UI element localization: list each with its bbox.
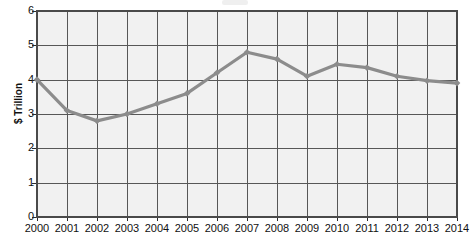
x-tick-label: 2000 xyxy=(21,222,53,234)
x-tick-label: 2007 xyxy=(231,222,263,234)
x-tick-label: 2014 xyxy=(441,222,473,234)
x-tick-label: 2013 xyxy=(411,222,443,234)
x-tick-label: 2012 xyxy=(381,222,413,234)
x-tick-label: 2008 xyxy=(261,222,293,234)
x-tick-label: 2011 xyxy=(351,222,383,234)
x-tick-label: 2006 xyxy=(201,222,233,234)
x-tick-label: 2004 xyxy=(141,222,173,234)
x-tick-label: 2009 xyxy=(291,222,323,234)
x-tick-label: 2010 xyxy=(321,222,353,234)
x-tick-label: 2005 xyxy=(171,222,203,234)
x-tick-label: 2001 xyxy=(51,222,83,234)
page-artifact xyxy=(222,0,248,5)
x-tick-label: 2003 xyxy=(111,222,143,234)
x-tick-label: 2002 xyxy=(81,222,113,234)
